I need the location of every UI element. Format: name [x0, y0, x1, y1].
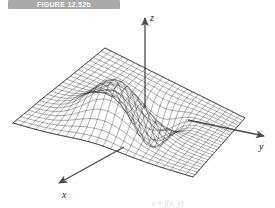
z-axis-label: z — [150, 13, 154, 23]
y-axis-label: y — [259, 142, 263, 152]
wireframe-mesh — [13, 48, 245, 177]
x-axis — [59, 147, 124, 183]
figure-container: FIGURE 12.52b z y x z = f(x, y) — [0, 0, 275, 208]
x-axis-label: x — [62, 190, 66, 200]
surface-plot-canvas — [0, 0, 275, 208]
bottom-clipped-caption: z = f(x, y) — [152, 199, 262, 208]
x-axis-line — [59, 147, 124, 183]
